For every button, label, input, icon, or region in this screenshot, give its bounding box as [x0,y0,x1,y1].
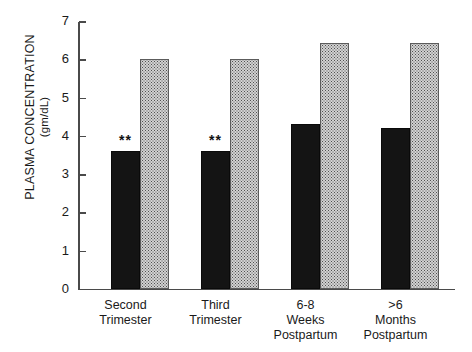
bar [410,43,439,288]
y-tick-mark [79,136,86,138]
y-tick-label: 1 [47,244,69,257]
bar [381,128,410,289]
y-tick-mark [79,98,86,100]
x-category-label-line: >6 [364,298,428,313]
y-tick-label: 2 [47,206,69,219]
y-axis-title-main: PLASMA CONCENTRATION [24,0,38,242]
y-tick-mark [79,251,86,253]
x-axis-line [78,289,455,291]
significance-marker: ** [209,133,222,147]
x-category-label: ThirdTrimester [189,298,241,328]
x-category-label: SecondTrimester [99,298,151,328]
x-category-label: 6-8WeeksPostpartum [274,298,338,342]
x-category-label-line: Second [99,298,151,313]
plot-area: 01234567 **** [78,22,455,290]
y-tick-label: 3 [47,167,69,180]
x-category-label-line: Postpartum [274,328,338,343]
y-tick-mark [79,212,86,214]
y-tick-label: 4 [47,129,69,142]
x-category-label-line: Trimester [99,313,151,328]
bar [291,124,320,289]
x-category-label-line: 6-8 [274,298,338,313]
x-category-label-line: Trimester [189,313,241,328]
bar [230,59,259,289]
y-tick-label: 0 [47,282,69,295]
y-tick-mark [79,174,86,176]
y-tick-label: 6 [47,53,69,66]
bar [201,151,230,289]
bar [140,59,169,289]
x-category-label-line: Postpartum [364,328,428,343]
x-category-label-line: Months [364,313,428,328]
x-category-label-line: Third [189,298,241,313]
x-category-label-line: Weeks [274,313,338,328]
y-tick-mark [79,59,86,61]
x-category-label: >6MonthsPostpartum [364,298,428,342]
y-tick-mark [79,21,86,23]
bar [111,151,140,289]
significance-marker: ** [119,133,132,147]
bar [320,43,349,288]
y-tick-label: 5 [47,91,69,104]
bar-chart: PLASMA CONCENTRATION (gm/dL) 01234567 **… [0,0,472,352]
y-tick-label: 7 [47,14,69,27]
